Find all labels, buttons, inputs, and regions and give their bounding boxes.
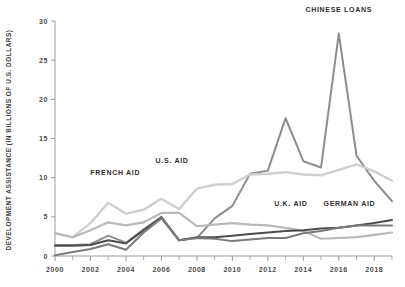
- x-tick-label: 2018: [365, 266, 383, 273]
- series-label-u-k-aid: U.K. AID: [274, 200, 307, 207]
- y-axis-title: DEVELOPMENT ASSISTANCE (IN BILLIONS OF U…: [5, 29, 13, 250]
- series-line-chinese-loans: [55, 34, 392, 246]
- y-tick-label: 0: [44, 253, 49, 260]
- y-tick-label: 20: [39, 96, 48, 103]
- y-axis-title-group: DEVELOPMENT ASSISTANCE (IN BILLIONS OF U…: [5, 29, 13, 250]
- series-label-chinese-loans: CHINESE LOANS: [305, 6, 372, 13]
- y-tick-label: 25: [39, 57, 48, 64]
- y-tick-label: 5: [44, 213, 49, 220]
- series-line-french-aid: [55, 213, 392, 239]
- x-tick-label: 2004: [117, 266, 135, 273]
- x-tick-label: 2002: [81, 266, 99, 273]
- x-tick-label: 2000: [46, 266, 64, 273]
- x-axis-ticks: 2000200220042006200820102012201420162018: [46, 256, 392, 273]
- x-tick-label: 2014: [294, 266, 312, 273]
- series-annotations: CHINESE LOANSU.S. AIDFRENCH AIDU.K. AIDG…: [90, 6, 375, 207]
- x-tick-label: 2016: [330, 266, 348, 273]
- y-tick-label: 30: [39, 18, 48, 25]
- y-tick-label: 15: [39, 135, 48, 142]
- series-label-french-aid: FRENCH AID: [90, 169, 140, 176]
- x-tick-label: 2012: [259, 266, 277, 273]
- x-tick-label: 2010: [223, 266, 241, 273]
- x-tick-label: 2006: [152, 266, 170, 273]
- series-line-u-k-aid: [55, 218, 392, 246]
- y-axis-ticks: 051015202530: [39, 18, 55, 260]
- series-label-german-aid: GERMAN AID: [324, 200, 376, 207]
- chart-container: DEVELOPMENT ASSISTANCE (IN BILLIONS OF U…: [0, 0, 405, 287]
- series-lines: [55, 34, 392, 256]
- line-chart: DEVELOPMENT ASSISTANCE (IN BILLIONS OF U…: [0, 0, 405, 287]
- x-tick-label: 2008: [188, 266, 206, 273]
- y-tick-label: 10: [39, 174, 48, 181]
- series-label-u-s-aid: U.S. AID: [156, 157, 189, 164]
